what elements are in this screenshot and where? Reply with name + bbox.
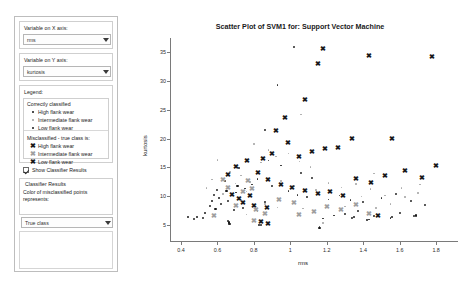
legend-item-intermediate-flank-wear-correct: Intermediate flank wear — [24, 116, 108, 124]
data-point — [229, 223, 231, 225]
data-point — [344, 213, 346, 215]
x-tick — [290, 242, 291, 245]
chart-title: Scatter Plot of SVM1 for: Support Vector… — [130, 22, 470, 31]
data-point: ✖ — [278, 182, 284, 189]
data-point: ✖ — [265, 221, 271, 228]
data-point: ✖ — [276, 197, 282, 204]
data-point — [368, 219, 370, 221]
data-point — [300, 172, 302, 174]
data-point: ✖ — [366, 211, 372, 218]
data-point — [357, 210, 359, 212]
cross-gray-icon: ✖ — [28, 151, 38, 158]
data-point — [257, 178, 259, 180]
y-tick — [167, 167, 171, 168]
data-point — [217, 159, 219, 161]
y-tick-label: 25 — [154, 107, 166, 113]
data-point: ✖ — [353, 202, 359, 209]
data-point — [373, 173, 375, 175]
data-point — [417, 192, 419, 194]
data-point: ✖ — [322, 146, 328, 153]
data-point: ✖ — [419, 175, 425, 182]
dot-medium-icon — [28, 119, 38, 121]
x-axis-group-label: Variable on X axis: — [24, 25, 68, 31]
data-point: ✖ — [233, 164, 239, 171]
data-point — [233, 209, 235, 211]
x-tick — [181, 242, 182, 245]
data-point — [302, 208, 304, 210]
y-axis-label: kurtosis — [142, 135, 148, 156]
x-axis-select[interactable]: rms — [23, 34, 111, 45]
data-point: ✖ — [269, 151, 275, 158]
x-tick — [363, 242, 364, 245]
x-tick-label: 1.4 — [357, 247, 369, 253]
show-classifier-results-checkbox[interactable]: Show Classifier Results — [23, 167, 87, 173]
y-axis-line — [170, 38, 171, 242]
data-point: ✖ — [429, 54, 435, 61]
dot-small-icon — [28, 111, 38, 113]
app-root: Variable on X axis: rms Variable on Y ax… — [0, 0, 476, 287]
dot-large-icon — [28, 127, 38, 129]
data-point — [204, 212, 206, 214]
x-tick — [400, 242, 401, 245]
cross-dark-icon: ✖ — [28, 159, 38, 166]
data-point: ✖ — [324, 204, 330, 211]
color-represents-value: True class — [22, 220, 103, 226]
data-point — [361, 196, 363, 198]
data-point — [218, 197, 220, 199]
x-tick-label: 0.8 — [248, 247, 260, 253]
data-point — [401, 187, 403, 189]
data-point — [280, 165, 282, 167]
x-axis-select-value: rms — [24, 37, 101, 43]
data-point — [193, 218, 195, 220]
data-point — [384, 195, 386, 197]
y-tick-label: 10 — [154, 193, 166, 199]
data-point: ✖ — [327, 189, 333, 196]
data-point — [209, 205, 211, 207]
data-point — [381, 197, 383, 199]
data-point — [300, 114, 302, 116]
data-point: ✖ — [253, 207, 259, 214]
legend-item-high-flank-wear-correct: High flank wear — [24, 108, 108, 116]
data-point: ✖ — [302, 188, 308, 195]
chevron-down-icon — [103, 221, 112, 225]
data-point: ✖ — [229, 192, 235, 199]
data-point — [288, 153, 290, 155]
data-point: ✖ — [302, 97, 308, 104]
color-represents-select[interactable]: True class — [21, 217, 113, 228]
y-axis-select[interactable]: kurtosis — [23, 66, 111, 77]
data-point: ✖ — [353, 176, 359, 183]
data-point: ✖ — [249, 186, 255, 193]
data-point — [242, 207, 244, 209]
data-point — [293, 46, 295, 48]
x-axis-line — [170, 241, 458, 242]
data-point: ✖ — [225, 185, 231, 192]
data-point: ✖ — [335, 145, 341, 152]
data-point — [310, 166, 312, 168]
data-point — [410, 200, 412, 202]
data-point: ✖ — [375, 213, 381, 220]
data-point: ✖ — [289, 185, 295, 192]
data-point — [333, 215, 335, 217]
data-point — [390, 203, 392, 205]
data-point — [220, 203, 222, 205]
scatter-chart: Scatter Plot of SVM1 for: Support Vector… — [130, 8, 470, 280]
data-point: ✖ — [225, 172, 231, 179]
x-tick-label: 0.4 — [175, 247, 187, 253]
data-point — [362, 201, 364, 203]
data-point — [236, 185, 238, 187]
data-point: ✖ — [320, 46, 326, 53]
data-point — [306, 196, 308, 198]
data-point — [213, 194, 215, 196]
data-point: ✖ — [349, 136, 355, 143]
y-axis-group-label: Variable on Y axis: — [24, 57, 68, 63]
data-point — [187, 216, 189, 218]
data-point: ✖ — [258, 219, 264, 226]
data-point — [415, 214, 417, 216]
data-point — [318, 227, 320, 229]
y-tick — [167, 225, 171, 226]
data-point — [375, 207, 377, 209]
legend-item-intermediate-flank-wear-mis: ✖ Intermediate flank wear — [24, 150, 108, 158]
data-point — [399, 212, 401, 214]
data-point: ✖ — [240, 200, 246, 207]
x-tick — [217, 242, 218, 245]
